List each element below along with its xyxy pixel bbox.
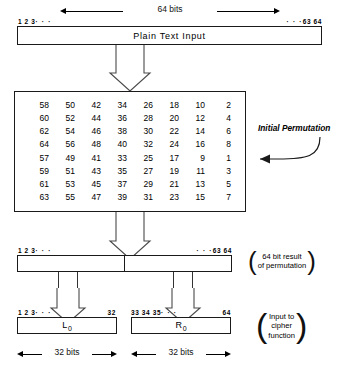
- r0-bits-left-dots: · · ·: [161, 309, 177, 316]
- perm-cell: 47: [79, 191, 105, 204]
- paren-close: ): [307, 251, 316, 272]
- dim-line-left: [22, 354, 42, 355]
- perm-cell: 2: [209, 99, 235, 112]
- perm-cell: 15: [183, 191, 209, 204]
- perm-cell: 42: [79, 99, 105, 112]
- perm-cell: 7: [209, 191, 235, 204]
- cipher-note-line3: function: [268, 331, 295, 340]
- perm-cell: 19: [157, 165, 183, 178]
- dim-arrowhead-right: [274, 8, 280, 14]
- perm-cell: 27: [131, 165, 157, 178]
- perm-cell: 5: [209, 178, 235, 191]
- plaintext-bits-right-dots: · · ·: [287, 18, 303, 25]
- l0-dimension-arrow: 32 bits: [17, 348, 117, 360]
- perm-cell: 9: [183, 152, 209, 165]
- perm-cell: 56: [53, 138, 79, 151]
- dim-line-right: [206, 354, 225, 355]
- perm-cell: 4: [209, 112, 235, 125]
- perm-cell: 36: [105, 112, 131, 125]
- result-box-center-divider: [124, 255, 125, 272]
- perm-cell: 8: [209, 138, 235, 151]
- paren-open: (: [256, 312, 267, 339]
- perm-cell: 25: [131, 152, 157, 165]
- perm-cell: 64: [27, 138, 53, 151]
- perm-cell: 34: [105, 99, 131, 112]
- paren-open: (: [248, 251, 257, 272]
- perm-cell: 11: [183, 165, 209, 178]
- perm-cell: 26: [131, 99, 157, 112]
- perm-cell: 48: [79, 138, 105, 151]
- perm-cell: 30: [131, 125, 157, 138]
- perm-cell: 16: [183, 138, 209, 151]
- perm-cell: 60: [27, 112, 53, 125]
- perm-cell: 45: [79, 178, 105, 191]
- plain-text-input-label: Plain Text Input: [133, 31, 206, 41]
- perm-cell: 17: [157, 152, 183, 165]
- perm-cell: 21: [157, 178, 183, 191]
- perm-cell: 51: [53, 165, 79, 178]
- l0-label: L0: [62, 320, 72, 332]
- perm-cell: 58: [27, 99, 53, 112]
- result-note-line1: 64 bit result: [258, 252, 307, 261]
- paren-close: ): [296, 312, 307, 339]
- perm-cell: 32: [131, 138, 157, 151]
- perm-cell: 35: [105, 165, 131, 178]
- l0-bits-left: 1 2 3· · ·: [18, 309, 52, 316]
- arrow-plaintext-to-table: [108, 45, 152, 92]
- des-initial-permutation-diagram: 64 bits 1 2 3· · · · · ·63 64 Plain Text…: [0, 0, 340, 369]
- perm-cell: 61: [27, 178, 53, 191]
- perm-cell: 54: [53, 125, 79, 138]
- perm-cell: 33: [105, 152, 131, 165]
- dim-line-right: [217, 11, 275, 12]
- callout-curved-arrow: [248, 135, 326, 173]
- perm-cell: 43: [79, 165, 105, 178]
- perm-cell: 55: [53, 191, 79, 204]
- l0-box: L0: [17, 317, 117, 334]
- perm-cell: 24: [157, 138, 183, 151]
- plaintext-bits-left: 1 2 3· · ·: [18, 18, 52, 25]
- perm-cell: 53: [53, 178, 79, 191]
- result-bits-right-value: 63 64: [213, 247, 232, 254]
- r0-label-text: R: [175, 320, 182, 330]
- result-bits-right: · · ·63 64: [160, 247, 232, 254]
- perm-cell: 23: [157, 191, 183, 204]
- r0-box: R0: [131, 317, 231, 334]
- cipher-note-line2: cipher: [268, 321, 295, 330]
- arrow-table-to-result: [108, 212, 152, 260]
- perm-cell: 46: [79, 125, 105, 138]
- initial-permutation-callout: Initial Permutation: [258, 123, 330, 133]
- perm-cell: 49: [53, 152, 79, 165]
- r0-bits-left: 33 34 35· · ·: [131, 309, 177, 316]
- l0-bits-left-value: 1 2 3: [18, 309, 35, 316]
- perm-cell: 39: [105, 191, 131, 204]
- r0-bits-left-value: 33 34 35: [131, 309, 161, 316]
- perm-cell: 20: [157, 112, 183, 125]
- perm-cell: 22: [157, 125, 183, 138]
- result-bits-left: 1 2 3· · ·: [18, 247, 52, 254]
- dim-line-left: [65, 11, 123, 12]
- r0-subscript: 0: [183, 324, 187, 331]
- plain-text-input-box: Plain Text Input: [17, 26, 322, 45]
- cipher-input-annotation: ( Input to cipher function ): [256, 308, 334, 344]
- perm-cell: 29: [131, 178, 157, 191]
- l0-dimension-label: 32 bits: [44, 348, 90, 357]
- perm-cell: 14: [183, 125, 209, 138]
- result-bits-left-value: 1 2 3: [18, 247, 35, 254]
- perm-cell: 12: [183, 112, 209, 125]
- perm-cell: 1: [209, 152, 235, 165]
- perm-cell: 13: [183, 178, 209, 191]
- perm-cell: 41: [79, 152, 105, 165]
- plaintext-bits-right: · · ·63 64: [238, 18, 322, 25]
- result-note-line2: of permutation: [258, 261, 307, 270]
- dim-line-left: [136, 354, 156, 355]
- perm-cell: 3: [209, 165, 235, 178]
- r0-dimension-label: 32 bits: [158, 348, 204, 357]
- perm-cell: 57: [27, 152, 53, 165]
- initial-permutation-table: 58 50 42 34 26 18 10 2 60 52 44 36 28 20…: [14, 91, 246, 212]
- top-dimension-label: 64 bits: [132, 5, 208, 14]
- result-bits-left-dots: · · ·: [35, 247, 51, 254]
- perm-cell: 18: [157, 99, 183, 112]
- l0-bits-left-dots: · · ·: [35, 309, 51, 316]
- perm-cell: 28: [131, 112, 157, 125]
- cipher-note-line1: Input to: [268, 312, 295, 321]
